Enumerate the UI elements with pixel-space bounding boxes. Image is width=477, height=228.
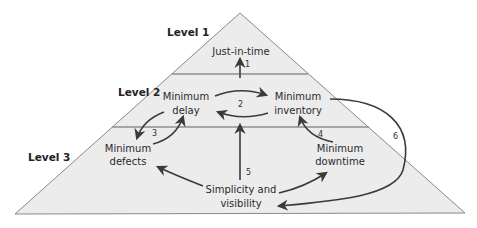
- node-label-line1: Minimum: [317, 143, 363, 154]
- arrow-5-number: 5: [246, 168, 251, 177]
- node-label-line1: Simplicity and: [206, 184, 277, 195]
- arrow-4-number: 4: [318, 130, 323, 139]
- arrow-6-number: 6: [393, 132, 398, 141]
- level-1-label: Level 1: [167, 26, 209, 38]
- level-3-label: Level 3: [28, 151, 70, 163]
- level-2-label: Level 2: [118, 86, 160, 98]
- node-label-line2: delay: [172, 105, 199, 116]
- pyramid-diagram: Level 1 Level 2 Level 3 Just-in-time Min…: [0, 0, 477, 228]
- node-label-line2: inventory: [274, 105, 322, 116]
- node-label-line2: defects: [110, 156, 147, 167]
- node-label-line1: Minimum: [163, 91, 209, 102]
- node-label-line1: Minimum: [105, 143, 151, 154]
- node-label: Just-in-time: [211, 46, 269, 57]
- arrow-2-number: 2: [238, 100, 243, 109]
- node-label-line1: Minimum: [275, 91, 321, 102]
- arrow-1-number: 1: [245, 60, 250, 69]
- node-label-line2: visibility: [220, 198, 261, 209]
- node-label-line2: downtime: [315, 156, 365, 167]
- node-just-in-time: Just-in-time: [211, 46, 269, 57]
- arrow-3-number: 3: [152, 129, 157, 138]
